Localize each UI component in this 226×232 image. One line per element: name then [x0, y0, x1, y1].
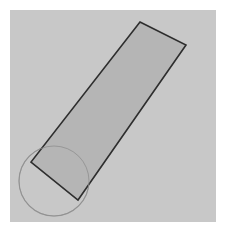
figure-root: [0, 0, 226, 232]
geometry-diagram: [0, 0, 226, 232]
